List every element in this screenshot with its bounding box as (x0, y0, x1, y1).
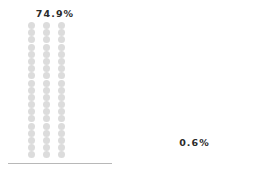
dot-glyph (28, 58, 35, 65)
dot-glyph (58, 29, 65, 36)
dot-glyph (43, 58, 50, 65)
dot-glyph (43, 137, 50, 144)
dot-glyph (58, 144, 65, 151)
dot-glyph (28, 22, 35, 29)
dot-glyph (28, 44, 35, 51)
dot-glyph (28, 51, 35, 58)
dot-glyph (28, 65, 35, 72)
dot-glyph (28, 130, 35, 137)
panel-left-baseline (8, 163, 112, 164)
panel-right-value-label: 0.6% (135, 137, 254, 148)
dot-glyph (58, 22, 65, 29)
dot-glyph (43, 65, 50, 72)
dot-glyph (58, 87, 65, 94)
dot-glyph (28, 144, 35, 151)
dot-glyph (28, 87, 35, 94)
dot-glyph (43, 123, 50, 130)
dot-glyph (28, 94, 35, 101)
dot-glyph (43, 22, 50, 29)
dot-glyph (58, 151, 65, 158)
dot-glyph (28, 151, 35, 158)
chart-panel-right: 0.6% (135, 0, 269, 175)
dot-glyph (43, 44, 50, 51)
dot-glyph (58, 101, 65, 108)
dot-glyph (28, 72, 35, 79)
dot-glyph (28, 29, 35, 36)
dot-glyph (28, 115, 35, 122)
dot-glyph (58, 137, 65, 144)
dot-glyph (28, 36, 35, 43)
dot-glyph (28, 108, 35, 115)
dot-glyph (28, 123, 35, 130)
dot-glyph (58, 94, 65, 101)
dot-matrix-chart: 74.9% 0.6% (0, 0, 269, 175)
dot-glyph (58, 65, 65, 72)
dot-glyph (43, 151, 50, 158)
dot-glyph (43, 115, 50, 122)
dot-glyph (58, 108, 65, 115)
dot-glyph (43, 87, 50, 94)
dot-glyph (43, 144, 50, 151)
chart-panel-left: 74.9% (0, 0, 135, 175)
dot-glyph (58, 115, 65, 122)
dot-glyph (43, 72, 50, 79)
dot-glyph (43, 101, 50, 108)
dot-glyph (58, 130, 65, 137)
dot-glyph (43, 36, 50, 43)
dot-glyph (28, 137, 35, 144)
dot-glyph (43, 94, 50, 101)
dot-glyph (43, 108, 50, 115)
dot-glyph (58, 44, 65, 51)
panel-left-dot-grid (28, 22, 73, 159)
dot-glyph (58, 58, 65, 65)
dot-glyph (58, 36, 65, 43)
dot-glyph (58, 72, 65, 79)
dot-glyph (28, 101, 35, 108)
panel-left-value-label: 74.9% (0, 8, 110, 19)
dot-glyph (43, 29, 50, 36)
dot-glyph (43, 80, 50, 87)
dot-glyph (58, 51, 65, 58)
dot-glyph (58, 80, 65, 87)
dot-glyph (28, 80, 35, 87)
dot-glyph (43, 130, 50, 137)
dot-glyph (58, 123, 65, 130)
dot-glyph (43, 51, 50, 58)
